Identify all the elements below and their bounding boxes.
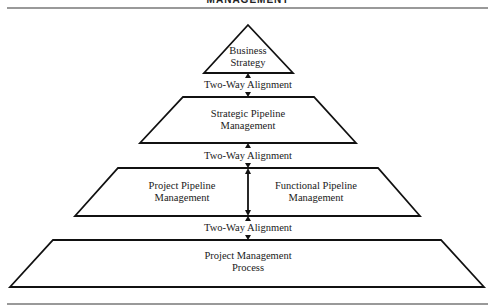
alignment-2-label: Two-Way Alignment [204,150,292,161]
alignment-1-label: Two-Way Alignment [204,79,292,90]
business-strategy-line2: Strategy [231,57,267,68]
business-strategy-level: Business Strategy [204,25,293,73]
strategic-pipeline-line1: Strategic Pipeline [211,108,286,119]
functional-pipeline-line1: Functional Pipeline [275,180,357,191]
pipeline-alignment-diagram: MANAGEMENT Business Strategy Two-Way Ali… [0,0,496,307]
pipeline-management-level: Project Pipeline Management Functional P… [75,168,420,216]
project-management-process-line2: Process [232,262,264,273]
alignment-1: Two-Way Alignment [204,73,292,97]
business-strategy-line1: Business [229,45,266,56]
project-management-process-level: Project Management Process [10,240,484,287]
strategic-pipeline-line2: Management [221,120,276,131]
figure-title-fragment: MANAGEMENT [207,0,290,5]
project-pipeline-line1: Project Pipeline [149,180,216,191]
project-pipeline-line2: Management [155,192,210,203]
alignment-3-label: Two-Way Alignment [204,222,292,233]
alignment-2: Two-Way Alignment [204,143,292,168]
strategic-pipeline-level: Strategic Pipeline Management [140,97,356,143]
alignment-3: Two-Way Alignment [204,216,292,240]
functional-pipeline-line2: Management [289,192,344,203]
project-management-process-line1: Project Management [204,250,291,261]
